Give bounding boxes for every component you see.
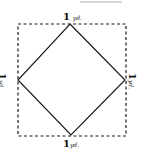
outer-dashed-square: [18, 24, 126, 136]
right-label-number: 1: [127, 73, 138, 80]
left-label-unit: yd.: [0, 80, 5, 89]
top-label-number: 1: [63, 11, 70, 22]
right-side-label: 1yd.: [127, 73, 137, 89]
bottom-label-number: 1: [63, 138, 70, 149]
diagram-canvas: [0, 0, 146, 150]
left-label-number: 1: [0, 73, 8, 80]
bottom-side-label: 1yd.: [63, 139, 79, 149]
top-label-unit: yd.: [73, 14, 82, 21]
top-side-label: 1 yd.: [63, 12, 82, 22]
right-label-unit: yd.: [128, 80, 135, 89]
left-side-label: 1yd.: [0, 73, 7, 89]
bottom-label-unit: yd.: [70, 141, 79, 148]
inner-diamond: [18, 24, 125, 135]
